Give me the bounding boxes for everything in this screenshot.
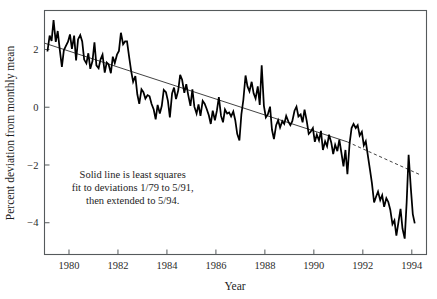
fit-description-annotation: Solid line is least squaresfit to deviat… — [72, 169, 194, 206]
x-tick-label: 1982 — [107, 260, 128, 271]
y-axis-title: Percent deviation from monthly mean — [4, 46, 17, 221]
x-tick-label: 1980 — [58, 260, 79, 271]
annotation-line: then extended to 5/94. — [86, 195, 179, 206]
y-tick-label: 2 — [33, 44, 38, 55]
x-tick-label: 1990 — [303, 260, 324, 271]
x-tick-label: 1986 — [205, 260, 226, 271]
y-tick-label: 0 — [33, 102, 38, 113]
y-tick-label: −4 — [27, 217, 39, 228]
chart-canvas: 20−2−4 19801982198419861988199019921994 … — [0, 0, 437, 299]
x-axis-title: Year — [224, 280, 245, 292]
y-tick-label: −2 — [27, 160, 38, 171]
annotation-line: fit to deviations 1/79 to 5/91, — [72, 182, 194, 193]
x-tick-label: 1994 — [401, 260, 423, 271]
x-tick-label: 1992 — [352, 260, 373, 271]
x-tick-label: 1988 — [254, 260, 275, 271]
annotation-line: Solid line is least squares — [80, 169, 186, 180]
x-tick-label: 1984 — [156, 260, 178, 271]
chart-figure: 20−2−4 19801982198419861988199019921994 … — [0, 0, 437, 299]
